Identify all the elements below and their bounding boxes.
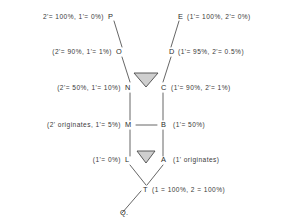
edge-e-d [171,21,179,47]
triangle-marker-upper [134,73,158,87]
annotation-left-P: 2'= 100%, 1'= 0%) [2,14,104,21]
annotation-right-B: (1'= 50%) [173,122,205,129]
node-label-P: P [108,13,113,20]
annotation-right-D: (1'= 95%, 2'= 0.5%) [178,49,244,56]
node-label-T: T [143,186,148,193]
annotation-left-L: (1'= 0%) [40,157,121,164]
edge-o-n [122,57,130,82]
edge-p-o [114,21,122,47]
edge-l-t [130,165,146,185]
edge-a-t [147,165,163,185]
annotation-right-A: (1' originates) [173,157,220,164]
node-label-D: D [169,48,175,55]
annotation-left-M: (2' originates, 1'= 5%) [2,122,121,129]
annotation-left-N: (2'= 50%, 1'= 10%) [8,85,121,92]
diagram-figure: P O N M L T Q. A B C D E 2'= 100%, 1'= 0… [0,0,300,221]
node-label-N: N [125,84,131,91]
annotation-left-O: (2'= 90%, 1'= 1%) [10,49,112,56]
annotation-right-C: (1'= 90%, 2'= 1%) [171,85,231,92]
annotation-right-E: (1'= 100%, 2'= 0%) [187,14,251,21]
edge-d-c [163,57,171,82]
node-label-Q: Q. [120,209,128,216]
node-label-B: B [161,121,166,128]
node-label-A: A [161,156,166,163]
node-label-L: L [125,156,129,163]
node-label-O: O [116,48,122,55]
node-label-E: E [178,13,183,20]
node-label-C: C [161,84,167,91]
triangle-marker-lower [137,151,155,163]
annotation-bottom-T: (1 = 100%, 2 = 100%) [152,187,225,194]
node-label-M: M [125,121,131,128]
diagram-line-layer [0,0,300,221]
